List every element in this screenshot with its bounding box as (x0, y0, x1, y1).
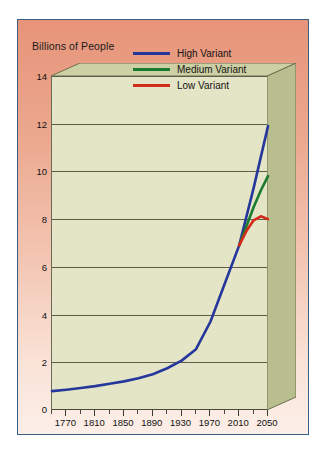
x-tick-label-2010: 2010 (228, 417, 249, 428)
legend-item-medium-variant: Medium Variant (133, 62, 246, 76)
chart-legend: High Variant Medium Variant Low Variant (133, 46, 246, 92)
x-tick-label-1850: 1850 (112, 417, 133, 428)
ytick-label-0: 0 (42, 404, 47, 415)
ytick-label-2: 2 (42, 357, 47, 368)
legend-swatch-low-variant (133, 84, 170, 87)
x-tick-label-1930: 1930 (170, 417, 191, 428)
legend-label-medium-variant: Medium Variant (177, 64, 246, 75)
x-tick-minor-1870 (137, 410, 138, 414)
plot-area-3d: 14 12 10 8 6 4 2 (51, 63, 296, 410)
ytick-label-14: 14 (36, 71, 47, 82)
x-tick-1970 (209, 410, 210, 416)
x-tick-1770 (65, 410, 66, 416)
chart-title: Billions of People (32, 40, 114, 52)
population-projection-chart: Billions of People 14 12 10 (0, 0, 326, 461)
x-tick-minor-1830 (109, 410, 110, 414)
legend-item-low-variant: Low Variant (133, 78, 246, 92)
x-tick-label-1810: 1810 (84, 417, 105, 428)
ytick-label-4: 4 (42, 309, 47, 320)
x-tick-2050 (267, 410, 268, 416)
x-tick-2010 (238, 410, 239, 416)
ytick-label-8: 8 (42, 214, 47, 225)
chart-frame: Billions of People 14 12 10 (17, 19, 309, 435)
plot-front-face: 14 12 10 8 6 4 2 (51, 76, 267, 410)
legend-item-high-variant: High Variant (133, 46, 246, 60)
x-tick-label-1890: 1890 (141, 417, 162, 428)
x-tick-label-1770: 1770 (55, 417, 76, 428)
x-tick-label-2050: 2050 (256, 417, 277, 428)
x-tick-1930 (181, 410, 182, 416)
legend-swatch-high-variant (133, 52, 170, 55)
x-tick-1850 (123, 410, 124, 416)
x-tick-minor-1910 (166, 410, 167, 414)
ytick-label-10: 10 (36, 166, 47, 177)
x-tick-1890 (152, 410, 153, 416)
x-tick-minor-1950 (195, 410, 196, 414)
x-tick-label-1970: 1970 (199, 417, 220, 428)
data-series-layer (52, 76, 268, 410)
x-tick-minor-2030 (253, 410, 254, 414)
x-tick-minor-1990 (224, 410, 225, 414)
legend-swatch-medium-variant (133, 68, 170, 71)
legend-label-high-variant: High Variant (177, 48, 231, 59)
ytick-label-12: 12 (36, 118, 47, 129)
x-tick-1810 (94, 410, 95, 416)
x-tick-minor-1750 (51, 410, 52, 414)
legend-label-low-variant: Low Variant (177, 80, 229, 91)
ytick-label-6: 6 (42, 261, 47, 272)
x-axis: 17701810185018901930197020102050 (51, 410, 267, 430)
series-line-high-variant (52, 126, 268, 391)
x-tick-minor-1790 (80, 410, 81, 414)
